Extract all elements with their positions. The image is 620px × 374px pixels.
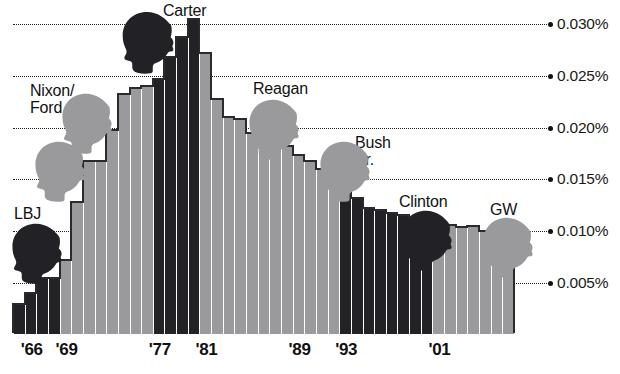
y-axis-label: 0.005% <box>557 274 608 292</box>
x-axis-label-1981: '81 <box>195 340 217 360</box>
president-label-reagan: Reagan <box>253 80 308 97</box>
bar-1977 <box>153 79 165 334</box>
president-label-clinton: Clinton <box>399 193 447 210</box>
bar-1986 <box>258 136 270 334</box>
x-axis-label-2001: '01 <box>428 340 450 360</box>
bar-1974 <box>118 94 130 334</box>
bar-step-outline <box>70 201 72 261</box>
y-tick-dot <box>548 177 553 182</box>
bar-1972 <box>95 161 107 334</box>
president-head-icon <box>115 10 179 74</box>
y-tick-dot <box>548 22 553 27</box>
chart-root: 0.005%0.010%0.015%0.020%0.025%0.030%'66'… <box>0 0 620 374</box>
bar-1975 <box>130 88 142 334</box>
plot-area: 0.005%0.010%0.015%0.020%0.025%0.030%'66'… <box>0 0 620 374</box>
x-axis-label-1977: '77 <box>149 340 171 360</box>
bar-2003 <box>456 227 468 334</box>
bar-step-outline <box>140 85 142 89</box>
gridline-0030 <box>13 24 549 25</box>
bar-1995 <box>363 208 375 334</box>
president-head-icon <box>395 209 457 271</box>
bar-1987 <box>269 140 281 334</box>
bar-step-outline <box>385 209 387 213</box>
bar-step-outline <box>24 292 26 304</box>
bar-1993 <box>339 181 351 334</box>
bar-1968 <box>48 278 60 334</box>
president-head-icon <box>313 140 375 202</box>
bar-1994 <box>351 198 363 334</box>
gridline-0025 <box>13 76 549 77</box>
bar-1966 <box>25 293 37 334</box>
y-tick-dot <box>548 229 553 234</box>
president-head-icon <box>5 222 67 284</box>
bar-step-outline <box>152 78 154 87</box>
x-axis-label-1966: '66 <box>21 340 43 360</box>
bar-1976 <box>141 86 153 334</box>
y-axis-label: 0.010% <box>557 222 608 240</box>
bar-step-outline <box>187 18 189 39</box>
bar-1973 <box>106 130 118 334</box>
y-axis-label: 0.020% <box>557 119 608 137</box>
y-tick-dot <box>548 281 553 286</box>
bar-step-outline <box>222 98 224 119</box>
president-head-icon <box>476 216 538 278</box>
y-tick-dot <box>548 126 553 131</box>
bar-step-outline <box>373 207 375 211</box>
y-axis-label: 0.030% <box>557 15 608 33</box>
outline-left-cap <box>12 303 14 333</box>
bar-1996 <box>374 210 386 334</box>
president-label-lbj: LBJ <box>14 205 41 222</box>
bar-step-outline <box>210 52 212 100</box>
y-axis-label: 0.025% <box>557 67 608 85</box>
bar-1980 <box>188 19 200 334</box>
y-tick-dot <box>548 74 553 79</box>
president-head-icon <box>242 98 304 160</box>
bar-step-outline <box>129 87 131 95</box>
bar-1978 <box>164 57 176 334</box>
bar-step-outline <box>198 18 200 54</box>
bar-step-outline <box>117 93 119 130</box>
x-axis-label-1969: '69 <box>56 340 78 360</box>
bar-1989 <box>293 155 305 334</box>
president-head-icon <box>28 140 90 202</box>
bar-1967 <box>36 278 48 334</box>
bar-1983 <box>223 117 235 334</box>
bar-1982 <box>211 99 223 334</box>
bar-step-outline <box>233 116 235 120</box>
x-axis-label-1993: '93 <box>335 340 357 360</box>
bar-step-outline <box>94 160 96 162</box>
bar-1985 <box>246 133 258 334</box>
bar-1979 <box>176 37 188 334</box>
bar-1970 <box>71 202 83 334</box>
bar-1965 <box>13 304 25 334</box>
x-axis-label-1989: '89 <box>289 340 311 360</box>
bar-1988 <box>281 146 293 334</box>
y-axis-label: 0.015% <box>557 170 608 188</box>
bar-step-outline <box>466 225 468 228</box>
